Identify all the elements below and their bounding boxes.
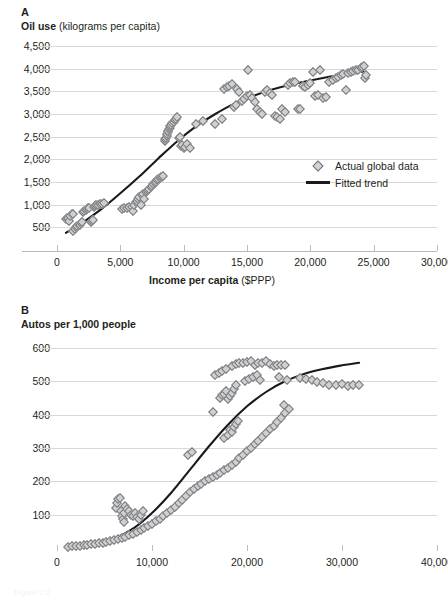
x-tick-label: 25,000 (358, 256, 390, 268)
x-tick (342, 545, 343, 551)
panel-b-title: Autos per 1,000 people (21, 318, 136, 330)
panel-a-title-bold: Oil use (21, 20, 56, 32)
x-tick (152, 545, 153, 551)
panel-a-y-axis-labels: 5001,0001,5002,0002,5003,0003,5004,0004,… (4, 46, 50, 250)
legend-row-fitted-trend: Fitted trend (305, 175, 418, 190)
xcap-a-units: ($PPP) (241, 274, 275, 286)
panel-a-x-axis-line (22, 251, 437, 252)
panel-a-letter: A (21, 6, 29, 18)
x-tick-label: 0 (54, 256, 60, 268)
panel-b-title-bold: Autos per 1,000 people (21, 318, 136, 330)
panel-a-legend: Actual global data Fitted trend (305, 158, 418, 192)
panel-a-plot-area (57, 46, 437, 250)
panel-a-title: Oil use (kilograms per capita) (21, 20, 160, 32)
panel-b-letter: B (21, 304, 29, 316)
diamond-marker-icon (305, 162, 331, 170)
figure-footnote: Figure 7.2 (14, 588, 50, 597)
panel-a-x-axis-caption-bold: Income per capita (149, 274, 238, 286)
x-tick (120, 245, 121, 251)
legend-label-fitted-trend: Fitted trend (335, 177, 388, 189)
x-tick (310, 245, 311, 251)
panel-a-title-units: (kilograms per capita) (56, 20, 160, 32)
x-tick (57, 245, 58, 251)
panel-a: A Oil use (kilograms per capita) 5001,00… (0, 0, 448, 298)
x-tick (437, 245, 438, 251)
x-tick (247, 245, 248, 251)
trend-line-icon (305, 181, 331, 183)
x-tick-label: 15,000 (231, 256, 263, 268)
x-tick-label: 0 (54, 556, 60, 568)
x-tick-label: 20,000 (231, 556, 263, 568)
x-tick (184, 245, 185, 251)
x-tick (437, 545, 438, 551)
x-tick-label: 5,000 (107, 256, 133, 268)
panel-b: B Autos per 1,000 people 100200300400500… (0, 298, 448, 598)
fitted-trend-line (57, 46, 437, 250)
panel-a-x-axis-caption: Income per capita ($PPP) (0, 274, 436, 286)
x-tick-label: 30,000 (421, 256, 448, 268)
legend-row-actual-data: Actual global data (305, 158, 418, 173)
legend-label-actual-data: Actual global data (335, 160, 418, 172)
x-tick-label: 10,000 (136, 556, 168, 568)
x-tick-label: 20,000 (294, 256, 326, 268)
x-tick (247, 545, 248, 551)
x-tick-label: 10,000 (168, 256, 200, 268)
x-tick-label: 30,000 (326, 556, 358, 568)
x-tick-label: 40,000 (421, 556, 448, 568)
panel-b-plot-area (57, 348, 437, 548)
x-tick (57, 545, 58, 551)
x-tick (374, 245, 375, 251)
